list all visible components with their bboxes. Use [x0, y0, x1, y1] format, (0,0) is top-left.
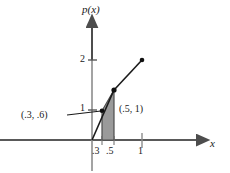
- x-tick-label-0-3: .3: [92, 146, 100, 156]
- annotation-point-a: (.3, .6): [21, 110, 48, 120]
- data-point-0-5: [111, 87, 116, 92]
- y-tick-label-2: 2: [80, 54, 85, 64]
- y-tick-label-1: 1: [80, 103, 85, 113]
- x-tick-label-1: 1: [138, 146, 143, 156]
- annotation-point-b: (.5, 1): [119, 104, 143, 114]
- x-axis-label: x: [210, 138, 215, 149]
- plot-canvas: [0, 0, 230, 173]
- density-upper-segment: [114, 60, 142, 90]
- x-tick-label-0-5: .5: [106, 146, 114, 156]
- data-point-0-3: [100, 109, 105, 114]
- data-point-1-2: [140, 58, 145, 63]
- figure-container: p(x) x 2 1 .3 .5 1 (.3, .6) (.5, 1): [0, 0, 230, 173]
- y-axis-label: p(x): [82, 4, 100, 15]
